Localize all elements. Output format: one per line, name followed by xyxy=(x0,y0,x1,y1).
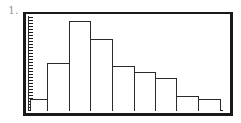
problem-number-label: 1. xyxy=(8,5,19,16)
histogram-bar xyxy=(69,21,91,111)
histogram-bar xyxy=(198,99,221,111)
histogram-bar xyxy=(155,78,177,111)
histogram-bar xyxy=(176,96,199,111)
histogram-bar xyxy=(90,39,113,111)
histogram-bar xyxy=(47,63,70,111)
histogram-bar xyxy=(30,99,48,111)
histogram-plot-area xyxy=(30,0,222,111)
histogram-bar xyxy=(134,72,156,111)
histogram-bar xyxy=(112,66,135,111)
